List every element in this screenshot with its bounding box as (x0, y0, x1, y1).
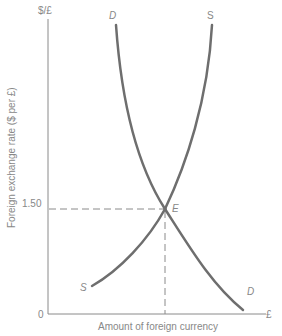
x-axis-title: Amount of foreign currency (98, 321, 218, 332)
origin-label: 0 (38, 309, 44, 320)
tick-label-150: 1.50 (22, 198, 42, 209)
supply-label-bottom: S (80, 282, 87, 293)
y-unit-label: $/£ (38, 5, 52, 16)
supply-curve (92, 25, 212, 286)
equilibrium-point (163, 207, 167, 211)
x-unit-label: £ (266, 309, 272, 320)
exchange-rate-chart: $/£ £ 0 1.50 Amount of foreign currency … (0, 0, 282, 336)
supply-label-top: S (207, 10, 214, 21)
demand-label-bottom: D (247, 286, 254, 297)
demand-label-top: D (109, 10, 116, 21)
y-axis-title: Foreign exchange rate ($ per £) (6, 87, 17, 228)
equilibrium-label: E (172, 203, 179, 214)
demand-curve (116, 25, 243, 310)
